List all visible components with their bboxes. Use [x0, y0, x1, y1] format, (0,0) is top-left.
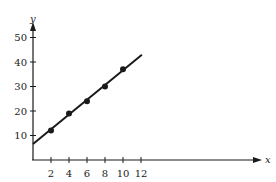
data-point: [120, 66, 126, 72]
y-tick-label: 20: [14, 106, 27, 117]
scatter-plot-with-fit-line: 246810121020304050 x y: [0, 0, 276, 182]
x-tick-label: 10: [117, 168, 130, 179]
y-tick-label: 50: [14, 32, 27, 43]
x-tick-label: 2: [48, 168, 54, 179]
y-tick-label: 30: [14, 81, 27, 92]
x-axis-label: x: [265, 154, 271, 165]
x-tick-label: 12: [135, 168, 148, 179]
y-tick-label: 10: [14, 130, 27, 141]
data-point: [84, 98, 90, 104]
x-tick-label: 4: [66, 168, 72, 179]
data-point: [102, 84, 108, 90]
data-point: [66, 110, 72, 116]
x-tick-label: 6: [84, 168, 90, 179]
x-axis-arrow-icon: [253, 157, 262, 163]
y-tick-label: 40: [14, 57, 27, 68]
data-point: [48, 128, 54, 134]
y-axis-label: y: [29, 13, 36, 24]
x-tick-label: 8: [102, 168, 108, 179]
axes: [30, 22, 262, 163]
